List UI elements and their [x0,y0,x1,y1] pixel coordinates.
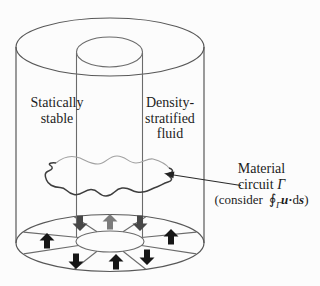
label-statically-stable-line2: stable [18,111,96,127]
contour-integral-symbol: ∮ [269,192,276,207]
annotation-formula: (consider∮Γu·ds) [203,192,320,213]
ring-arrow-up-right [164,229,179,245]
annotation-line1: Material [203,161,320,177]
ring-arrow-up-back-center [103,214,118,230]
ring-arrow-down-front-right [140,250,155,266]
diagram-svg [0,0,320,286]
gamma-symbol: Γ [277,177,285,192]
ring-divider [24,232,79,237]
material-circuit-back-edge [56,156,169,168]
annotation-material-circuit: Material circuit Γ (consider∮Γu·ds) [203,161,320,213]
material-circuit-front-edge [45,163,172,196]
label-statically-stable: Statically stable [18,95,96,126]
label-density-stratified-fluid: Density- stratified fluid [132,95,208,142]
material-circuit [45,156,172,196]
annotation-pointer-arrowhead [164,172,174,179]
label-density-line3: fluid [132,126,208,142]
figure-container: Statically stable Density- stratified fl… [0,0,320,286]
annotation-line2: circuit Γ [203,177,320,193]
ring-hub-ellipse [76,231,144,252]
ring-arrow-down-back-right [133,216,148,232]
ring-arrow-down-front-left [69,254,84,270]
ring-arrow-up-front-center [109,254,124,270]
ring-divider [24,246,79,254]
ring-arrow-down-back-left [73,216,88,232]
inner-tube-top-rim [77,37,143,67]
annotation-circuit-word: circuit [238,177,274,192]
label-density-line2: stratified [132,111,208,127]
formula-close: ) [304,192,308,207]
label-statically-stable-line1: Statically [18,95,96,111]
outer-cylinder [16,18,204,272]
label-density-line1: Density- [132,95,208,111]
ring-arrows [40,214,179,270]
formula-open: (consider [215,192,263,207]
